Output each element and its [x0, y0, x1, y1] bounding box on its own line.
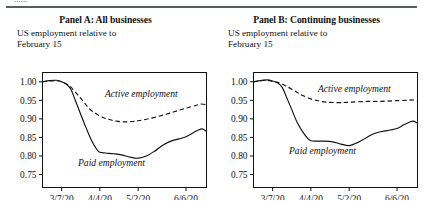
panel-a-svg: 0.750.800.850.900.951.00 3/7/204/4/205/2… [0, 54, 211, 200]
panel-b-y-ticklabels: 0.750.800.850.900.951.00 [231, 77, 248, 180]
clipped-header-label: ...... [14, 0, 27, 4]
panel-b-paid-employment-label: Paid employment [288, 145, 356, 156]
b-y-ticklabel: 0.90 [231, 114, 248, 124]
a-y-ticklabel: 0.80 [20, 151, 37, 161]
panel-a-y-ticklabels: 0.750.800.850.900.951.00 [20, 77, 37, 180]
panel-a-paid-employment-label: Paid employment [77, 157, 145, 168]
panel-a-active-employment-line [43, 81, 207, 122]
a-y-ticklabel: 1.00 [20, 77, 37, 87]
a-x-ticklabel: 5/2/20 [126, 194, 150, 201]
panel-b: Panel B: Continuing businesses US employ… [211, 14, 422, 200]
panel-a-y-ticks [39, 82, 43, 175]
a-x-ticklabel: 3/7/20 [50, 194, 74, 201]
a-y-ticklabel: 0.85 [20, 133, 37, 143]
horizontal-rule [6, 6, 417, 8]
panel-b-x-ticks [273, 188, 397, 192]
b-y-ticklabel: 0.85 [231, 133, 248, 143]
a-x-ticklabel: 6/6/20 [174, 194, 198, 201]
panel-a-plot: 0.750.800.850.900.951.00 3/7/204/4/205/2… [0, 54, 211, 200]
b-y-ticklabel: 0.95 [231, 96, 248, 106]
clipped-header-text: ...... [0, 0, 423, 5]
panel-b-svg: 0.750.800.850.900.951.00 3/7/204/4/205/2… [211, 54, 422, 200]
panel-a-title: Panel A: All businesses [0, 14, 211, 25]
panel-b-active-employment-label: Active employment [317, 83, 391, 94]
a-y-ticklabel: 0.90 [20, 114, 37, 124]
a-x-ticklabel: 4/4/20 [88, 194, 112, 201]
panel-b-title: Panel B: Continuing businesses [211, 14, 422, 25]
panel-a-active-employment-label: Active employment [104, 88, 178, 99]
panel-b-x-ticklabels: 3/7/204/4/205/2/206/6/20 [261, 194, 410, 201]
panel-b-y-ticks [250, 82, 254, 175]
b-x-ticklabel: 5/2/20 [337, 194, 361, 201]
b-y-ticklabel: 0.75 [231, 170, 248, 180]
panel-a-x-ticklabels: 3/7/204/4/205/2/206/6/20 [50, 194, 199, 201]
b-x-ticklabel: 3/7/20 [261, 194, 285, 201]
a-y-ticklabel: 0.75 [20, 170, 37, 180]
panel-a-subtitle: US employment relative to February 15 [17, 28, 116, 49]
b-x-ticklabel: 4/4/20 [299, 194, 323, 201]
b-x-ticklabel: 6/6/20 [385, 194, 409, 201]
b-y-ticklabel: 0.80 [231, 151, 248, 161]
figure-container: ...... Panel A: All businesses US employ… [0, 0, 423, 200]
panel-b-plot: 0.750.800.850.900.951.00 3/7/204/4/205/2… [211, 54, 422, 200]
a-y-ticklabel: 0.95 [20, 96, 37, 106]
panel-a: Panel A: All businesses US employment re… [0, 14, 211, 200]
panel-b-subtitle: US employment relative to February 15 [228, 28, 327, 49]
panel-a-x-ticks [62, 188, 186, 192]
b-y-ticklabel: 1.00 [231, 77, 248, 87]
